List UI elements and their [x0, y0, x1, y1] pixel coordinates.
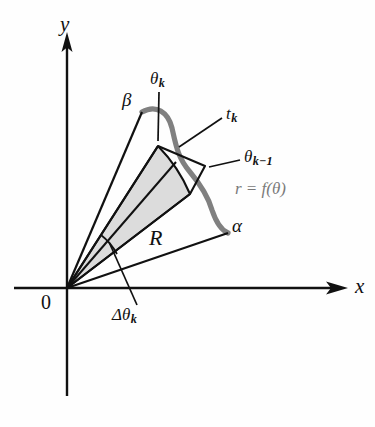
delta-theta-base: Δθ [112, 305, 130, 324]
leader-theta-k-minus-1 [209, 160, 240, 167]
leader-t-k [179, 118, 222, 147]
y-axis-label: y [60, 14, 69, 35]
x-axis-label: x [355, 276, 364, 297]
leader-theta-k [158, 92, 159, 141]
theta-k-minus-1-subscript: k−1 [253, 154, 273, 168]
leader-delta-theta-k [109, 242, 137, 305]
t-k-subscript: k [231, 111, 237, 125]
region-r-label: R [149, 227, 162, 249]
beta-label: β [122, 90, 131, 109]
diagram-canvas [0, 0, 375, 427]
theta-k-base: θ [150, 69, 158, 88]
axes-group [14, 32, 348, 396]
theta-k-subscript: k [159, 76, 165, 90]
delta-theta-subscript: k [131, 312, 137, 326]
t-k-label: tk [226, 105, 237, 125]
theta-k-minus-1-label: θk−1 [244, 148, 273, 168]
theta-k-minus-1-base: θ [244, 147, 252, 166]
curve-equation-label: r = f(θ) [235, 180, 286, 197]
delta-theta-k-label: Δθk [112, 306, 137, 326]
origin-label: 0 [41, 292, 51, 312]
alpha-label: α [232, 216, 242, 235]
polar-area-diagram: y x 0 β α θk θk−1 tk Δθk R r = f(θ) [0, 0, 375, 427]
theta-k-label: θk [150, 70, 165, 90]
